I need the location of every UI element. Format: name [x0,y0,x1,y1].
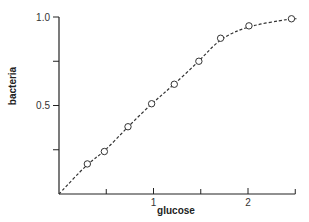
x-tick-label: 1 [151,197,157,208]
x-axis-label: glucose [157,205,195,216]
data-point-marker [84,161,90,167]
data-point-marker [101,148,107,154]
data-point-marker [148,101,154,107]
data-line [59,19,297,194]
data-point-marker [246,23,252,29]
data-point-marker [171,81,177,87]
y-tick-label: 1.0 [36,12,50,23]
data-markers [84,16,295,168]
data-point-marker [125,124,131,130]
data-point-marker [196,58,202,64]
y-tick-label: 0.5 [36,100,50,111]
data-point-marker [288,16,294,22]
x-tick-label: 2 [245,197,251,208]
chart: 0.51.012 glucose bacteria [0,0,309,222]
data-point-marker [217,35,223,41]
axes: 0.51.012 [36,12,295,209]
y-axis-label: bacteria [7,66,18,105]
